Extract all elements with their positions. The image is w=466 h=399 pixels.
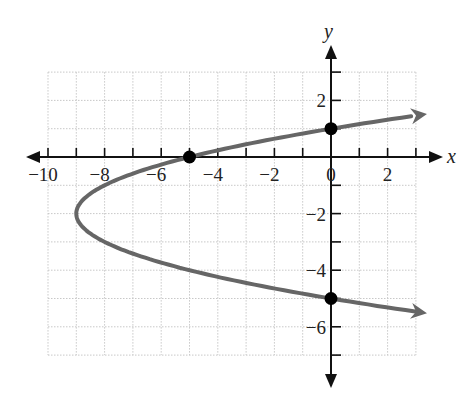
- x-tick-label: −10: [28, 164, 58, 185]
- y-tick-label: 2: [317, 90, 327, 111]
- y-tick-label: −6: [306, 317, 326, 338]
- x-axis-arrow-left: [26, 151, 40, 163]
- y-axis-label: y: [322, 20, 333, 43]
- y-intercept-lower-point: [325, 292, 338, 305]
- x-tick-label: −2: [259, 164, 279, 185]
- x-axis-arrow-right: [429, 151, 443, 163]
- x-tick-label: −8: [89, 164, 109, 185]
- x-tick-label: −4: [203, 164, 224, 185]
- x-tick-label: 0: [326, 164, 336, 185]
- y-intercept-upper-point: [325, 122, 338, 135]
- grid: [48, 72, 416, 355]
- parabola-chart: −10−8−6−4−202 2−2−4−6 x y: [0, 0, 466, 399]
- y-axis-arrow-up: [325, 45, 337, 59]
- y-tick-label: −4: [306, 260, 327, 281]
- curve-layer: [76, 108, 427, 319]
- x-tick-labels: −10−8−6−4−202: [28, 164, 392, 185]
- x-axis-label: x: [446, 145, 456, 167]
- y-axis-arrow-down: [325, 374, 337, 388]
- y-tick-label: −2: [306, 204, 326, 225]
- x-intercept-point: [183, 151, 196, 164]
- y-tick-labels: 2−2−4−6: [306, 90, 327, 337]
- x-tick-label: 2: [383, 164, 393, 185]
- axes: [26, 45, 443, 388]
